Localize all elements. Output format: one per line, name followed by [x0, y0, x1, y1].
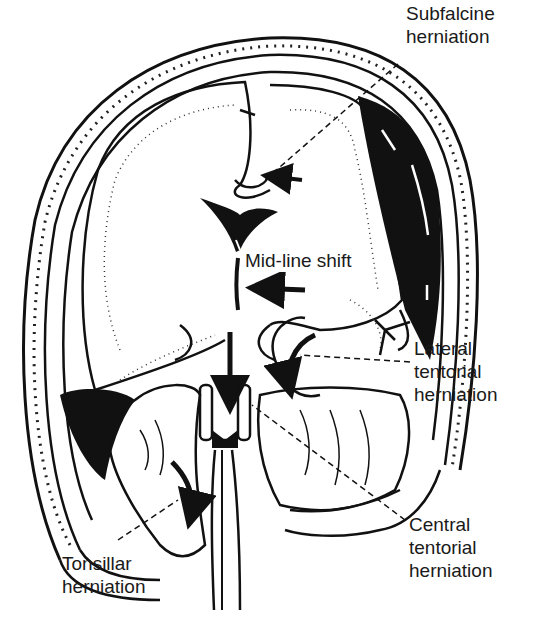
lateral-ventricles: [200, 198, 278, 252]
lateral-herniation-arrow: [288, 335, 315, 390]
label-line: herniation: [414, 383, 497, 406]
label-line: Tonsillar: [62, 552, 145, 575]
label-line: herniation: [409, 559, 492, 582]
label-line: tentorial: [409, 536, 492, 559]
label-line: herniation: [62, 575, 145, 598]
label-line: herniation: [406, 25, 495, 48]
cerebellum: [110, 385, 409, 556]
label-line: Central: [409, 513, 492, 536]
tonsillar-herniation-arrow: [172, 462, 192, 520]
label-subfalcine-herniation: Subfalcine herniation: [406, 2, 495, 48]
label-midline-shift: Mid-line shift: [242, 249, 355, 272]
label-line: Lateral: [414, 337, 497, 360]
subfalcine-arrow: [268, 176, 302, 180]
left-dark-region: [60, 389, 135, 480]
lateral-leader: [300, 355, 410, 362]
septum: [237, 258, 239, 310]
label-lateral-tentorial-herniation: Lateral tentorial herniation: [414, 337, 497, 406]
midline-shift-arrow: [255, 288, 305, 290]
tonsillar-leader: [118, 500, 178, 540]
label-line: Mid-line shift: [245, 249, 352, 272]
label-central-tentorial-herniation: Central tentorial herniation: [409, 513, 492, 582]
label-tonsillar-herniation: Tonsillar herniation: [62, 552, 145, 598]
brainstem: [200, 385, 250, 610]
central-leader: [252, 405, 405, 520]
label-line: tentorial: [414, 360, 497, 383]
label-line: Subfalcine: [406, 2, 495, 25]
